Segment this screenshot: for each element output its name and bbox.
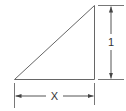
base-label: X: [51, 90, 59, 102]
right-triangle: [15, 6, 95, 80]
triangle-diagram: 1 X: [0, 0, 126, 111]
height-label: 1: [108, 36, 114, 48]
